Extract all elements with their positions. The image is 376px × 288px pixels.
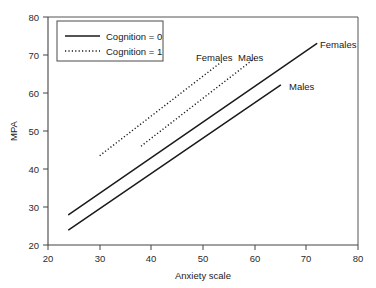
x-tick-label-50: 50 xyxy=(198,253,209,264)
legend: Cognition = 0 Cognition = 1 xyxy=(57,21,163,61)
data-series-group xyxy=(69,44,317,230)
y-axis-tick-labels: 20 30 40 50 60 70 80 xyxy=(28,12,39,251)
x-axis-title: Anxiety scale xyxy=(175,270,231,281)
y-tick-label-20: 20 xyxy=(28,240,39,251)
line-females-cognition-1 xyxy=(100,60,224,156)
y-tick-label-80: 80 xyxy=(28,12,39,23)
line-females-cognition-0 xyxy=(69,44,317,215)
x-axis-ticks xyxy=(48,245,358,250)
y-axis-ticks xyxy=(43,17,48,245)
y-tick-label-30: 30 xyxy=(28,202,39,213)
x-tick-label-80: 80 xyxy=(353,253,364,264)
series-label-males-cognition-0: Males xyxy=(289,81,315,92)
x-tick-label-70: 70 xyxy=(301,253,312,264)
series-label-males-cognition-1: Males xyxy=(238,52,264,63)
chart-figure: 20 30 40 50 60 70 80 20 30 40 50 60 70 8… xyxy=(0,0,376,288)
y-tick-label-60: 60 xyxy=(28,88,39,99)
line-males-cognition-0 xyxy=(69,85,281,230)
x-tick-label-60: 60 xyxy=(250,253,261,264)
legend-label-cognition-0: Cognition = 0 xyxy=(106,31,162,42)
y-axis-title: MPA xyxy=(8,120,19,141)
x-axis-tick-labels: 20 30 40 50 60 70 80 xyxy=(43,253,364,264)
x-tick-label-30: 30 xyxy=(95,253,106,264)
x-tick-label-40: 40 xyxy=(146,253,157,264)
series-label-females-cognition-1: Females xyxy=(196,52,233,63)
line-males-cognition-1 xyxy=(141,58,255,146)
y-tick-label-50: 50 xyxy=(28,126,39,137)
y-tick-label-70: 70 xyxy=(28,50,39,61)
x-tick-label-20: 20 xyxy=(43,253,54,264)
series-annotations: Females Males Males Females xyxy=(196,39,357,92)
legend-label-cognition-1: Cognition = 1 xyxy=(106,46,162,57)
chart-svg: 20 30 40 50 60 70 80 20 30 40 50 60 70 8… xyxy=(0,0,376,288)
y-tick-label-40: 40 xyxy=(28,164,39,175)
series-label-females-cognition-0: Females xyxy=(320,39,357,50)
